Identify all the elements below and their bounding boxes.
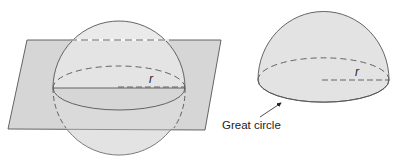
sphere-plane-figure: r [8, 21, 221, 155]
hemisphere-figure: r Great circle [222, 11, 389, 131]
sphere-upper-part [53, 21, 185, 88]
diagram-canvas: r r Great circle [0, 0, 401, 162]
great-circle-label: Great circle [222, 119, 281, 131]
hemisphere-dome [258, 11, 389, 102]
great-circle-arrow [260, 103, 281, 117]
